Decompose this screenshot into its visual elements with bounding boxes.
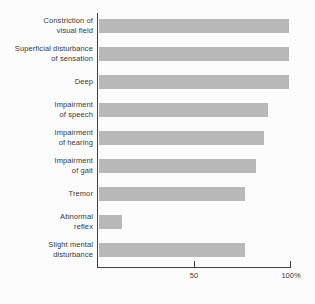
category-label: Deep xyxy=(0,70,93,94)
y-axis-line xyxy=(97,13,98,268)
bar xyxy=(99,187,245,201)
category-label: Impairmentof speech xyxy=(0,98,93,122)
category-label-line: Impairment xyxy=(54,128,93,139)
bar xyxy=(99,19,289,33)
x-tick-label-100: 100% xyxy=(274,271,308,280)
bar xyxy=(99,215,122,229)
x-tick-50 xyxy=(194,261,195,267)
category-label: Superficial disturbanceof sensation xyxy=(0,42,93,66)
x-tick-label-50: 50 xyxy=(184,271,204,280)
category-label: Slight mentaldisturbance xyxy=(0,238,93,262)
category-label-line: of speech xyxy=(60,110,93,121)
bar xyxy=(99,47,289,61)
category-label-line: of sensation xyxy=(51,54,93,65)
category-label-line: Abnormal xyxy=(60,212,93,223)
x-tick-100 xyxy=(290,261,291,267)
bar xyxy=(99,243,245,257)
category-label: Impairmentof gait xyxy=(0,154,93,178)
category-label: Abnormalreflex xyxy=(0,210,93,234)
category-label-line: of hearing xyxy=(59,138,93,149)
category-label-line: Tremor xyxy=(69,189,94,200)
category-label: Constriction ofvisual field xyxy=(0,14,93,38)
bar xyxy=(99,131,264,145)
category-label-line: Impairment xyxy=(54,100,93,111)
category-label-line: Impairment xyxy=(54,156,93,167)
category-label-line: Superficial disturbance xyxy=(15,44,93,55)
category-label-line: visual field xyxy=(57,26,93,37)
bar-chart: 50 100% Constriction ofvisual fieldSuper… xyxy=(0,0,315,304)
category-label-line: Deep xyxy=(75,77,93,88)
category-label-line: Slight mental xyxy=(48,240,93,251)
bar xyxy=(99,75,289,89)
category-label-line: of gait xyxy=(72,166,93,177)
category-label-line: reflex xyxy=(74,222,93,233)
category-label-line: disturbance xyxy=(53,250,93,261)
category-label: Tremor xyxy=(0,182,93,206)
bar xyxy=(99,103,268,117)
bar xyxy=(99,159,256,173)
category-label: Impairmentof hearing xyxy=(0,126,93,150)
x-axis-line xyxy=(97,267,291,268)
category-label-line: Constriction of xyxy=(44,16,93,27)
